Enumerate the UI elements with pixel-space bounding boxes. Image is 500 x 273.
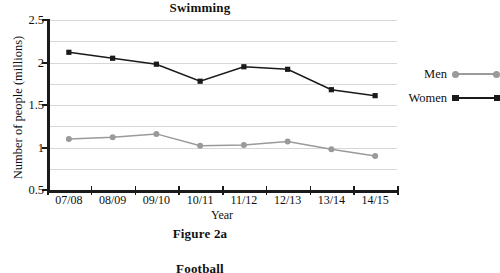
legend-marker-men-left <box>452 71 459 78</box>
series-women <box>66 50 377 99</box>
x-axis-tick-label: 12/13 <box>266 193 310 207</box>
data-point-women <box>241 64 246 69</box>
legend-line-men <box>454 73 498 75</box>
data-point-men <box>153 131 159 137</box>
data-point-women <box>198 79 203 84</box>
legend-item-women: Women <box>404 90 500 106</box>
x-axis-tick-label: 13/14 <box>310 193 354 207</box>
legend-swatch-men <box>452 68 500 80</box>
data-point-women <box>373 93 378 98</box>
legend-line-women <box>454 97 498 99</box>
x-axis-tick-label: 10/11 <box>178 193 222 207</box>
legend-label-men: Men <box>424 67 452 81</box>
x-axis-tick-label: 08/09 <box>91 193 135 207</box>
y-axis-tick-marks <box>0 20 47 190</box>
data-point-men <box>328 146 334 152</box>
legend: Men Women <box>404 66 500 114</box>
data-point-men <box>197 143 203 149</box>
series-men <box>66 131 378 159</box>
data-point-women <box>329 87 334 92</box>
legend-marker-women-right <box>494 95 500 102</box>
x-axis-tick-label: 14/15 <box>353 193 397 207</box>
figure-caption: Figure 2a <box>0 226 400 242</box>
data-point-women <box>285 67 290 72</box>
legend-swatch-women <box>452 92 500 104</box>
x-axis-tick-label: 11/12 <box>222 193 266 207</box>
data-point-women <box>110 56 115 61</box>
data-point-women <box>66 50 71 55</box>
data-point-men <box>372 153 378 159</box>
next-chart-title: Football <box>0 261 400 273</box>
legend-label-women: Women <box>408 91 452 105</box>
data-point-women <box>154 62 159 67</box>
x-axis-tick-label: 07/08 <box>47 193 91 207</box>
x-axis-tick-mark <box>397 186 399 195</box>
series-container <box>47 20 397 190</box>
data-point-men <box>66 136 72 142</box>
x-axis-label: Year <box>47 208 397 223</box>
x-axis-tick-label: 09/10 <box>135 193 179 207</box>
data-point-men <box>285 139 291 145</box>
chart-title: Swimming <box>0 0 400 15</box>
legend-marker-men-right <box>493 71 500 78</box>
figure-swimming: Swimming Number of people (millions) 0.5… <box>0 0 500 232</box>
legend-item-men: Men <box>404 66 500 82</box>
data-point-men <box>110 134 116 140</box>
x-axis-tick-labels: 07/0808/0909/1010/1111/1212/1313/1414/15 <box>47 193 397 209</box>
data-point-men <box>241 142 247 148</box>
legend-marker-women-left <box>452 95 459 102</box>
